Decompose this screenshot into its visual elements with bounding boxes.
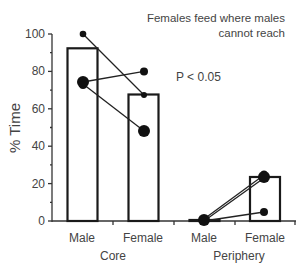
- chart: Females feed where males cannot reach P …: [0, 0, 306, 270]
- bar-core-male: [68, 48, 98, 221]
- data-points: [77, 31, 270, 226]
- svg-text:60: 60: [32, 102, 46, 116]
- svg-text:80: 80: [32, 64, 46, 78]
- svg-text:Periphery: Periphery: [213, 249, 264, 263]
- bar-core-female: [129, 95, 159, 222]
- svg-text:100: 100: [25, 27, 45, 41]
- annotation-line-2: cannot reach: [219, 27, 286, 39]
- x-category-labels: Male Female Male Female: [69, 231, 285, 245]
- stat-label: P < 0.05: [176, 70, 221, 84]
- annotation-line-1: Females feed where males: [147, 12, 285, 24]
- svg-text:40: 40: [32, 139, 46, 153]
- svg-text:20: 20: [32, 177, 46, 191]
- svg-text:0: 0: [38, 214, 45, 228]
- svg-text:Core: Core: [100, 249, 126, 263]
- x-group-labels: Core Periphery: [100, 249, 265, 263]
- y-axis-label: % Time: [6, 103, 23, 153]
- y-tick-labels: 100 80 60 40 20 0: [25, 27, 45, 228]
- paired-lines: [83, 34, 264, 221]
- svg-text:Male: Male: [191, 231, 217, 245]
- bars: [68, 48, 281, 221]
- svg-text:Female: Female: [123, 231, 163, 245]
- y-axis: [48, 34, 52, 222]
- svg-text:Male: Male: [69, 231, 95, 245]
- svg-text:Female: Female: [245, 231, 285, 245]
